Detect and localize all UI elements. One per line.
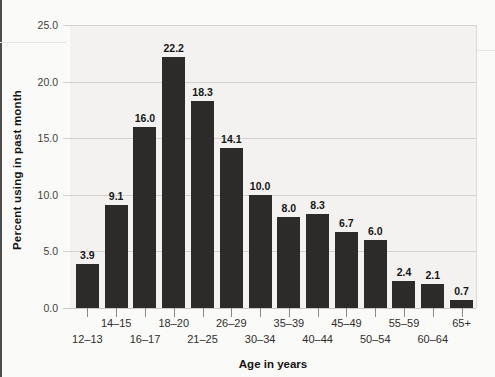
bar <box>191 101 214 308</box>
x-axis-tick <box>433 308 434 317</box>
bar <box>249 195 272 308</box>
x-tick-label: 35–39 <box>274 317 305 329</box>
bar <box>76 264 99 308</box>
bar <box>133 127 156 308</box>
bar <box>421 284 444 308</box>
y-tick-labels: 25.020.015.010.05.00.0 <box>0 25 60 308</box>
x-tick-label: 30–34 <box>245 333 276 345</box>
bar-slot: 0.765+ <box>447 25 476 308</box>
bar-slot: 22.218–20 <box>159 25 188 308</box>
y-tick-label: 10.0 <box>38 189 58 201</box>
bar-slot: 2.160–64 <box>418 25 447 308</box>
y-tick-label: 15.0 <box>38 132 58 144</box>
x-tick-label: 21–25 <box>187 333 218 345</box>
x-tick-label: 65+ <box>452 317 471 329</box>
bar-value-label: 16.0 <box>135 112 155 124</box>
bar-value-label: 3.9 <box>80 249 95 261</box>
bar <box>162 57 185 308</box>
x-axis-tick <box>87 308 88 317</box>
bar <box>277 217 300 308</box>
bars-row: 3.912–139.114–1516.016–1722.218–2018.321… <box>73 25 476 308</box>
bar-value-label: 18.3 <box>192 86 212 98</box>
bar-value-label: 22.2 <box>164 42 184 54</box>
bar-value-label: 0.7 <box>454 285 469 297</box>
x-axis-title: Age in years <box>70 358 476 370</box>
bar <box>364 240 387 308</box>
x-tick-label: 16–17 <box>130 333 161 345</box>
bar-value-label: 8.3 <box>310 199 325 211</box>
bar-slot: 2.455–59 <box>390 25 419 308</box>
bar-value-label: 14.1 <box>221 133 241 145</box>
bar-value-label: 2.1 <box>425 269 440 281</box>
bar-value-label: 2.4 <box>397 266 412 278</box>
figure-root: Percent using in past month 25.020.015.0… <box>0 0 495 377</box>
x-axis-tick <box>289 308 290 317</box>
x-tick-label: 26–29 <box>216 317 247 329</box>
x-tick-label: 40–44 <box>302 333 333 345</box>
x-axis-tick <box>174 308 175 317</box>
bar <box>335 232 358 308</box>
bar-value-label: 10.0 <box>250 180 270 192</box>
bar-value-label: 6.7 <box>339 217 354 229</box>
bar-slot: 14.126–29 <box>217 25 246 308</box>
bar-slot: 8.035–39 <box>274 25 303 308</box>
x-tick-label: 45–49 <box>331 317 362 329</box>
x-axis-tick <box>231 308 232 317</box>
bar-slot: 6.050–54 <box>361 25 390 308</box>
bar-slot: 9.114–15 <box>102 25 131 308</box>
x-tick-label: 50–54 <box>360 333 391 345</box>
bar <box>306 214 329 308</box>
x-axis-tick <box>375 308 376 317</box>
bar <box>392 281 415 308</box>
y-tick-label: 0.0 <box>43 302 58 314</box>
y-tick-label: 25.0 <box>38 19 58 31</box>
x-tick-label: 12–13 <box>72 333 103 345</box>
x-tick-label: 55–59 <box>389 317 420 329</box>
bar-slot: 18.321–25 <box>188 25 217 308</box>
x-axis-tick <box>404 308 405 317</box>
y-tick-label: 20.0 <box>38 76 58 88</box>
x-axis-tick <box>462 308 463 317</box>
bar-slot: 10.030–34 <box>246 25 275 308</box>
plot-area: 3.912–139.114–1516.016–1722.218–2018.321… <box>70 25 477 308</box>
x-tick-label: 60–64 <box>417 333 448 345</box>
bar-slot: 6.745–49 <box>332 25 361 308</box>
bar-value-label: 8.0 <box>282 202 297 214</box>
bar-slot: 16.016–17 <box>131 25 160 308</box>
bar <box>105 205 128 308</box>
x-tick-label: 14–15 <box>101 317 132 329</box>
gridline <box>63 308 476 309</box>
x-axis-tick <box>145 308 146 317</box>
x-axis-tick <box>318 308 319 317</box>
bar <box>450 300 473 308</box>
x-axis-tick <box>346 308 347 317</box>
bar-slot: 3.912–13 <box>73 25 102 308</box>
x-axis-tick <box>116 308 117 317</box>
scan-artifact-line-right <box>477 50 495 51</box>
bar-slot: 8.340–44 <box>303 25 332 308</box>
x-tick-label: 18–20 <box>158 317 189 329</box>
x-axis-tick <box>203 308 204 317</box>
bar <box>220 148 243 308</box>
bar-value-label: 6.0 <box>368 225 383 237</box>
bar-value-label: 9.1 <box>109 190 124 202</box>
x-axis-tick <box>260 308 261 317</box>
y-tick-label: 5.0 <box>43 245 58 257</box>
